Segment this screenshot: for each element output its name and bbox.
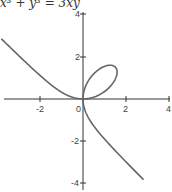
- y-tick-label: 2: [75, 52, 80, 62]
- x-tick-label: 4: [166, 104, 171, 114]
- y-tick-label: -2: [71, 136, 79, 146]
- x-tick-label: 0: [76, 104, 81, 114]
- x-tick-label: -2: [36, 104, 44, 114]
- plot-area: -2 0 2 4 4 2 -2 -4: [0, 0, 172, 192]
- x-tick-label: 2: [123, 104, 128, 114]
- y-tick-label: -4: [71, 178, 79, 188]
- y-tick-label: 4: [75, 9, 80, 19]
